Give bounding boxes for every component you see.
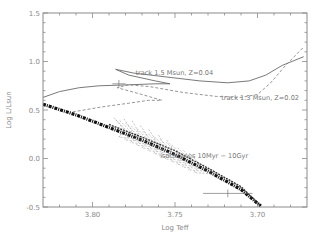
hr-diagram-chart: 3.803.753.70-0.50.00.51.01.5 Log Teff Lo… <box>0 0 324 238</box>
annotation-2: isochrones 10Myr − 10Gyr <box>160 152 248 160</box>
x-tick-label: 3.80 <box>85 211 101 219</box>
x-axis-label: Log Teff <box>162 224 189 232</box>
y-axis-label: Log L/Lsun <box>5 91 13 128</box>
y-tick-label: 1.5 <box>29 10 40 18</box>
annotation-0: track 1.5 Msun, Z=0.04 <box>135 69 213 77</box>
y-tick-label: 0.5 <box>29 107 40 115</box>
axis-tick-labels: 3.803.753.70-0.50.00.51.01.5 <box>26 10 265 220</box>
x-tick-label: 3.75 <box>167 211 183 219</box>
isochrone-hook-0 <box>116 120 124 138</box>
y-tick-label: 0.0 <box>29 155 40 163</box>
x-tick-label: 3.70 <box>250 211 266 219</box>
y-tick-label: -0.5 <box>26 204 40 212</box>
y-tick-label: 1.0 <box>29 58 40 66</box>
annotations: track 1.5 Msun, Z=0.04track 1.3 Msun, Z=… <box>135 69 299 159</box>
annotation-1: track 1.3 Msun, Z=0.02 <box>221 94 299 102</box>
